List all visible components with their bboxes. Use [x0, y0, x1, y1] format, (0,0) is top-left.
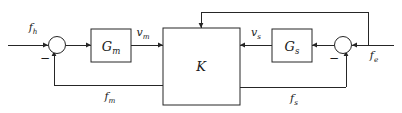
block-diagram-svg: Gm K Gs fh vm vs fe fm f: [0, 0, 402, 113]
arrowhead-fe-into-sum: [352, 43, 357, 48]
master-force-feedback-label: fm: [104, 90, 116, 105]
environment-force-input-label: fe: [369, 49, 378, 64]
left-junction-minus-sign: −: [40, 51, 50, 65]
left-summing-junction[interactable]: [49, 37, 66, 54]
slave-velocity-signal-label: vs: [251, 26, 261, 41]
master-velocity-signal-label: vm: [136, 26, 149, 41]
human-force-input-label: fh: [28, 21, 38, 36]
right-junction-minus-sign: −: [329, 51, 339, 65]
arrowhead-into-gm: [86, 43, 91, 48]
controller-block-label: K: [195, 59, 207, 74]
arrowhead-into-k-top: [199, 23, 204, 28]
slave-force-feedback-label: fs: [289, 92, 298, 107]
arrowhead-into-gs: [312, 43, 317, 48]
block-diagram-canvas: Gm K Gs fh vm vs fe fm f: [0, 0, 402, 113]
arrowhead-fh-into-sum: [43, 43, 48, 48]
arrowhead-vm-into-k: [158, 43, 163, 48]
arrowhead-vs-into-k: [240, 43, 245, 48]
